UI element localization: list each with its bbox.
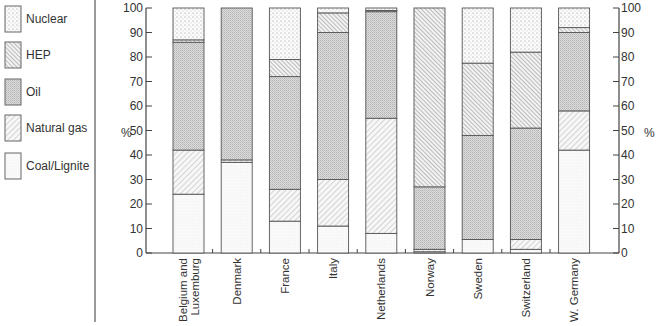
- legend-swatch-hep: [5, 42, 21, 68]
- stacked-bars: [173, 8, 590, 253]
- legend-item-gas: Natural gas: [5, 115, 87, 141]
- segment-oil: [462, 135, 493, 239]
- x-axis-labels: Belgium andLuxemburgDenmarkFranceItalyNe…: [177, 258, 581, 322]
- segment-coal: [510, 249, 541, 253]
- segment-nuclear: [559, 8, 590, 28]
- legend-swatch-nuclear: [5, 6, 21, 32]
- right-tick-label: 60: [621, 99, 635, 113]
- right-tick-label: 40: [621, 148, 635, 162]
- right-axis-unit-label: %: [644, 126, 655, 140]
- left-tick-label: 60: [130, 99, 144, 113]
- legend: NuclearHEPOilNatural gasCoal/Lignite: [5, 6, 90, 179]
- x-category-label: Norway: [424, 258, 436, 297]
- segment-coal: [366, 233, 397, 253]
- segment-coal: [318, 226, 349, 253]
- legend-label: HEP: [26, 48, 51, 62]
- legend-item-nuclear: Nuclear: [5, 6, 67, 32]
- energy-mix-chart: NuclearHEPOilNatural gasCoal/Lignite 010…: [0, 0, 657, 326]
- bar-netherlands: [366, 8, 397, 253]
- right-tick-label: 10: [621, 222, 635, 236]
- right-tick-label: 80: [621, 50, 635, 64]
- right-tick-label: 100: [621, 1, 641, 15]
- left-tick-label: 70: [130, 75, 144, 89]
- segment-coal: [559, 150, 590, 253]
- bar-france: [269, 8, 300, 253]
- x-category-label: Belgium and: [177, 258, 189, 322]
- bar-belgium-and-luxemburg: [173, 8, 204, 253]
- legend-item-coal: Coal/Lignite: [5, 153, 90, 179]
- segment-oil: [269, 77, 300, 190]
- segment-hep: [269, 59, 300, 76]
- legend-label: Nuclear: [26, 12, 67, 26]
- segment-nuclear: [318, 8, 349, 13]
- right-tick-label: 20: [621, 197, 635, 211]
- segment-gas: [318, 180, 349, 227]
- segment-nuclear: [462, 8, 493, 63]
- legend-swatch-oil: [5, 79, 21, 105]
- left-tick-label: 0: [136, 246, 143, 260]
- right-tick-label: 70: [621, 75, 635, 89]
- segment-coal: [173, 194, 204, 253]
- right-tick-label: 30: [621, 173, 635, 187]
- legend-label: Coal/Lignite: [26, 159, 90, 173]
- segment-nuclear: [510, 8, 541, 52]
- right-tick-label: 90: [621, 26, 635, 40]
- bar-norway: [414, 8, 445, 253]
- right-tick-label: 0: [621, 246, 628, 260]
- x-category-label: Luxemburg: [189, 258, 201, 316]
- segment-hep: [414, 8, 445, 187]
- segment-oil: [414, 187, 445, 249]
- segment-oil: [221, 8, 252, 160]
- x-category-label: Sweden: [472, 258, 484, 300]
- bar-w-germany: [559, 8, 590, 253]
- segment-oil: [559, 33, 590, 111]
- segment-gas: [510, 240, 541, 250]
- segment-hep: [462, 63, 493, 135]
- x-category-label: Netherlands: [375, 258, 387, 320]
- left-tick-label: 30: [130, 173, 144, 187]
- legend-swatch-gas: [5, 115, 21, 141]
- left-axis-unit-label: %: [121, 126, 132, 140]
- legend-swatch-coal: [5, 153, 21, 179]
- segment-nuclear: [269, 8, 300, 59]
- segment-coal: [221, 162, 252, 253]
- segment-oil: [366, 12, 397, 119]
- bar-italy: [318, 8, 349, 253]
- left-tick-label: 20: [130, 197, 144, 211]
- x-category-label: France: [279, 258, 291, 294]
- bar-switzerland: [510, 8, 541, 253]
- legend-label: Oil: [26, 85, 41, 99]
- left-tick-label: 40: [130, 148, 144, 162]
- segment-nuclear: [173, 8, 204, 40]
- x-category-label: Denmark: [231, 258, 243, 305]
- segment-coal: [269, 221, 300, 253]
- x-category-label: Switzerland: [520, 258, 532, 317]
- left-tick-label: 90: [130, 26, 144, 40]
- segment-oil: [510, 128, 541, 239]
- x-category-label: Italy: [327, 258, 339, 279]
- segment-hep: [559, 28, 590, 33]
- segment-oil: [318, 33, 349, 180]
- left-tick-label: 10: [130, 222, 144, 236]
- segment-gas: [269, 189, 300, 221]
- bar-sweden: [462, 8, 493, 253]
- segment-gas: [173, 150, 204, 194]
- right-y-axis: 0102030405060708090100: [613, 1, 641, 260]
- legend-item-oil: Oil: [5, 79, 41, 105]
- legend-item-hep: HEP: [5, 42, 51, 68]
- segment-hep: [510, 52, 541, 128]
- segment-oil: [173, 42, 204, 150]
- left-tick-label: 50: [130, 124, 144, 138]
- left-tick-label: 80: [130, 50, 144, 64]
- legend-label: Natural gas: [26, 121, 87, 135]
- segment-nuclear: [366, 8, 397, 10]
- left-tick-label: 100: [123, 1, 143, 15]
- segment-gas: [366, 118, 397, 233]
- x-category-label: W. Germany: [568, 258, 580, 322]
- segment-hep: [318, 13, 349, 33]
- right-tick-label: 50: [621, 124, 635, 138]
- bar-denmark: [221, 8, 252, 253]
- segment-coal: [462, 240, 493, 253]
- segment-gas: [559, 111, 590, 150]
